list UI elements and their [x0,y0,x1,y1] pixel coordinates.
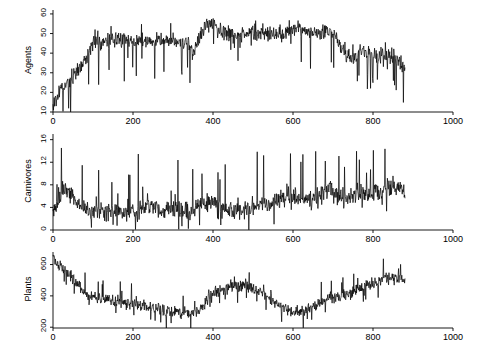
ytick-label-plants-400: 400 [39,282,48,306]
xtick-label-plants-1000: 1000 [433,332,473,342]
xtick-label-plants-800: 800 [353,332,393,342]
xtick-label-plants-600: 600 [273,332,313,342]
series-plants [53,255,405,328]
ytick-label-plants-600: 600 [39,251,48,275]
timeseries-figure: 10203040506002004006008001000Agents04812… [0,0,478,354]
xtick-label-plants-0: 0 [33,332,73,342]
xtick-label-plants-200: 200 [113,332,153,342]
ylabel-plants: Plants [23,254,33,324]
xtick-label-plants-400: 400 [193,332,233,342]
panel-plants-plot-area [0,0,478,354]
